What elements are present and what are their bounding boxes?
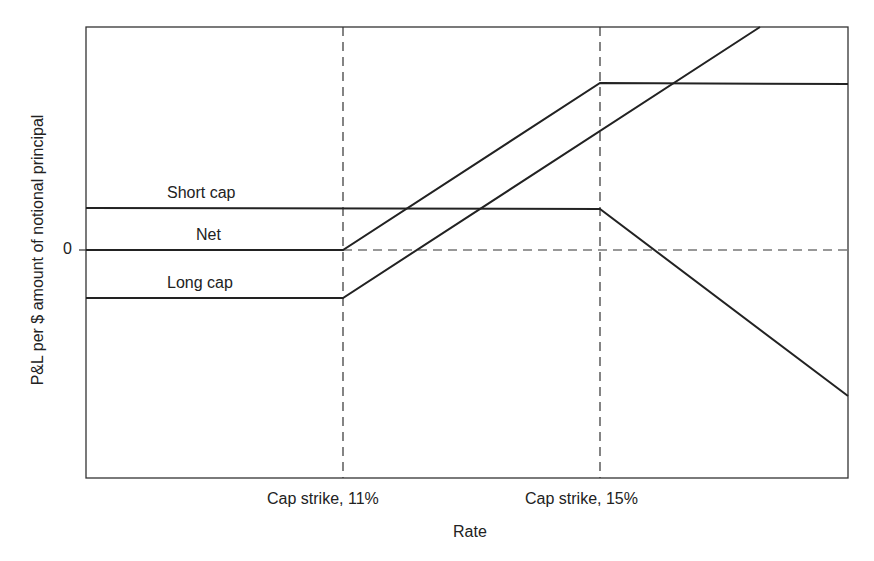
plot-frame <box>86 27 848 478</box>
x-tick-strike-11: Cap strike, 11% <box>267 490 379 508</box>
short-cap-label: Short cap <box>167 184 235 202</box>
y-zero-tick-label: 0 <box>63 240 72 258</box>
net-label: Net <box>196 226 221 244</box>
chart-canvas <box>0 0 874 561</box>
long-cap-label: Long cap <box>167 274 233 292</box>
long-cap-line <box>86 27 760 298</box>
x-tick-strike-15: Cap strike, 15% <box>525 490 638 508</box>
net-line <box>86 83 848 250</box>
y-axis-label: P&L per $ amount of notional principal <box>29 115 47 386</box>
x-axis-label: Rate <box>453 523 487 541</box>
